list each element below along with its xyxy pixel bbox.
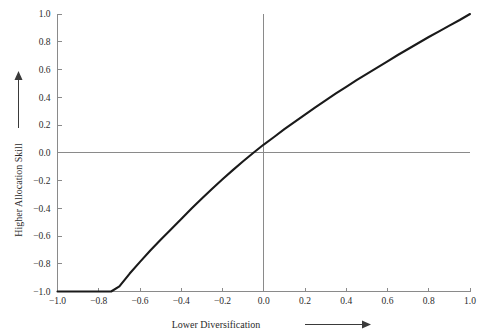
x-tick-label: −0.4 xyxy=(173,296,190,306)
y-axis-title: Higher Allocation Skill xyxy=(13,143,24,237)
y-tick-label: 1.0 xyxy=(39,9,51,19)
y-axis-title-group: Higher Allocation Skill xyxy=(13,71,24,237)
y-axis-arrow-head xyxy=(15,71,23,80)
y-tick-label: −0.2 xyxy=(33,176,50,186)
y-tick-label: −0.8 xyxy=(33,259,50,269)
y-axis-ticks xyxy=(58,14,62,292)
chart-plot: −1.0−0.8−0.6−0.4−0.20.00.20.40.60.81.0 −… xyxy=(0,0,486,334)
x-tick-label: −1.0 xyxy=(49,296,66,306)
x-tick-label: 0.8 xyxy=(423,296,435,306)
zero-lines-group xyxy=(57,14,470,291)
x-axis-ticks xyxy=(58,288,471,292)
x-tick-label: −0.6 xyxy=(131,296,148,306)
x-axis-title-group: Lower Diversification xyxy=(172,319,371,330)
x-tick-label: 0.2 xyxy=(299,296,311,306)
y-tick-label: 0.4 xyxy=(39,93,51,103)
y-tick-label: 0.0 xyxy=(39,148,51,158)
y-tick-label: 0.8 xyxy=(39,37,51,47)
x-axis-arrow-head xyxy=(362,321,371,329)
y-tick-label: −0.4 xyxy=(33,204,50,214)
x-tick-label: 0.0 xyxy=(258,296,270,306)
x-tick-label: 0.4 xyxy=(340,296,352,306)
y-tick-label: 0.2 xyxy=(39,120,51,130)
y-tick-label: −1.0 xyxy=(33,287,50,297)
x-tick-label: 1.0 xyxy=(464,296,476,306)
x-tick-label: −0.8 xyxy=(90,296,107,306)
x-axis-title: Lower Diversification xyxy=(172,319,261,330)
x-tick-label: −0.2 xyxy=(214,296,231,306)
y-axis-tick-labels: −1.0−0.8−0.6−0.4−0.20.00.20.40.60.81.0 xyxy=(33,9,50,297)
chart-container: −1.0−0.8−0.6−0.4−0.20.00.20.40.60.81.0 −… xyxy=(0,0,486,334)
x-tick-label: 0.6 xyxy=(382,296,394,306)
y-tick-label: −0.6 xyxy=(33,231,50,241)
x-axis-tick-labels: −1.0−0.8−0.6−0.4−0.20.00.20.40.60.81.0 xyxy=(49,296,476,306)
y-tick-label: 0.6 xyxy=(39,65,51,75)
